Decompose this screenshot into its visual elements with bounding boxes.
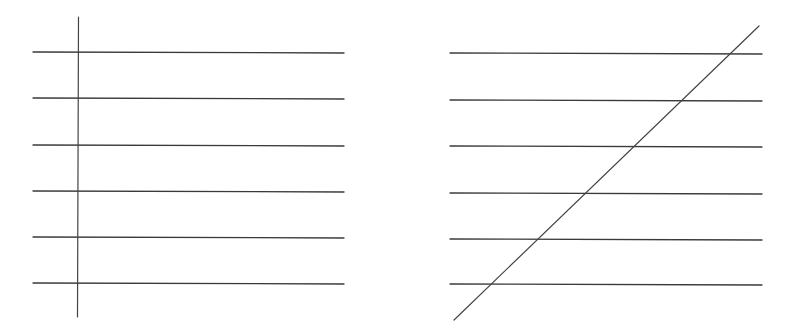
parallel-line <box>33 52 344 53</box>
parallel-line <box>33 98 344 99</box>
parallel-line <box>33 237 344 238</box>
figure-oblique-transversal <box>450 26 762 320</box>
transversal-line <box>454 26 759 320</box>
parallel-line <box>33 191 344 192</box>
parallel-line <box>450 239 762 240</box>
parallel-line <box>33 283 344 284</box>
parallel-line <box>450 100 762 101</box>
parallel-line <box>33 145 344 146</box>
parallel-line <box>450 284 762 285</box>
parallel-line <box>450 193 762 194</box>
parallel-line <box>450 146 762 147</box>
parallel-line <box>450 53 762 54</box>
transversal-line <box>78 17 79 317</box>
diagram-canvas <box>0 0 792 332</box>
figure-perpendicular-transversal <box>33 17 344 317</box>
